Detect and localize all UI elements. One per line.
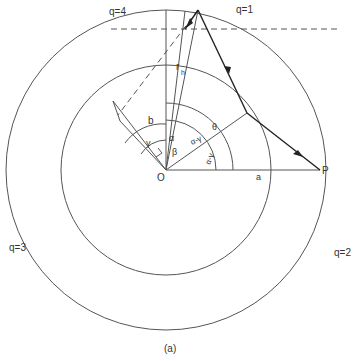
label-a: a bbox=[256, 172, 261, 182]
label-theta: θ bbox=[212, 122, 217, 132]
label-gamma: γ bbox=[146, 138, 151, 148]
label-rh: r bbox=[176, 61, 180, 72]
label-q4: q=4 bbox=[109, 6, 126, 17]
dashed-tangent bbox=[118, 10, 198, 115]
line-b bbox=[113, 101, 166, 170]
label-P: P bbox=[322, 165, 329, 176]
label-rh-sub: h bbox=[181, 69, 185, 76]
right-angle-mark bbox=[156, 148, 162, 157]
label-alpha: α bbox=[169, 133, 174, 143]
perp-tick bbox=[113, 101, 120, 121]
figure-caption: (a) bbox=[164, 343, 176, 354]
label-O: O bbox=[157, 172, 165, 183]
ray-segment-2 bbox=[247, 113, 320, 170]
ray-segment-1 bbox=[198, 10, 247, 113]
label-b: b bbox=[148, 115, 154, 126]
label-q1: q=1 bbox=[236, 4, 253, 15]
label-beta: β bbox=[172, 147, 177, 157]
label-q3: q=3 bbox=[9, 242, 26, 253]
arrow-icon bbox=[293, 150, 303, 157]
ray-geometry-diagram: q=4 q=1 q=3 q=2 r h b γ α β θ α-γ α-γ O … bbox=[0, 0, 360, 361]
label-q2: q=2 bbox=[334, 247, 351, 258]
